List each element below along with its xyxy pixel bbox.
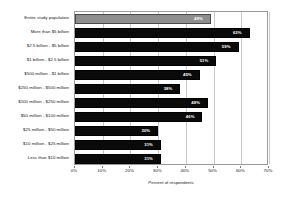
x-axis-title: Percent of respondents xyxy=(74,181,268,185)
gridline xyxy=(269,12,270,164)
bar-row: 31% xyxy=(75,154,267,163)
bar-row: 38% xyxy=(75,84,267,93)
bar-value-label: 31% xyxy=(144,157,160,161)
bar-value-label: 38% xyxy=(164,87,180,91)
bar-value-label: 45% xyxy=(183,73,199,77)
bar-value-label: 49% xyxy=(194,17,210,21)
x-tick-label: 40% xyxy=(180,169,189,173)
bar: 31% xyxy=(75,154,161,163)
bar: 45% xyxy=(75,70,200,79)
bar: 30% xyxy=(75,126,158,135)
bar: 38% xyxy=(75,84,180,93)
category-label: $1 billion - $2.5 billion xyxy=(27,58,69,62)
category-label: Entire study population xyxy=(24,16,69,20)
plot-area: 49%63%59%51%45%38%48%46%30%31%31% xyxy=(74,11,268,165)
bar: 49% xyxy=(75,14,211,23)
category-label: More than $5 billion xyxy=(31,30,69,34)
x-tick-label: 50% xyxy=(208,169,217,173)
bar-value-label: 63% xyxy=(233,31,249,35)
bar-value-label: 59% xyxy=(222,45,238,49)
bar-row: 31% xyxy=(75,140,267,149)
x-tick-label: 20% xyxy=(125,169,134,173)
bar-chart: Entire study populationMore than $5 bill… xyxy=(0,0,282,197)
category-axis-labels: Entire study populationMore than $5 bill… xyxy=(0,11,72,165)
bar: 48% xyxy=(75,98,208,107)
x-tick-label: 70% xyxy=(264,169,273,173)
category-label: $2.5 billion - $5 billion xyxy=(27,44,69,48)
x-tick-label: 0% xyxy=(71,169,77,173)
bar-value-label: 30% xyxy=(141,129,157,133)
bar-row: 63% xyxy=(75,28,267,37)
bar-row: 48% xyxy=(75,98,267,107)
bar: 46% xyxy=(75,112,202,121)
category-label: $10 million - $25 million xyxy=(23,142,69,146)
bar: 51% xyxy=(75,56,216,65)
x-axis-ticks: 0%10%20%30%40%50%60%70% xyxy=(74,166,268,176)
bar-row: 59% xyxy=(75,42,267,51)
bar: 63% xyxy=(75,28,250,37)
bar-row: 46% xyxy=(75,112,267,121)
bar: 31% xyxy=(75,140,161,149)
category-label: Less than $10 million xyxy=(28,156,69,160)
bar-value-label: 51% xyxy=(200,59,216,63)
category-label: $25 million - $50 million xyxy=(23,128,69,132)
bar-row: 45% xyxy=(75,70,267,79)
bar-value-label: 31% xyxy=(144,143,160,147)
bar: 59% xyxy=(75,42,239,51)
bar-row: 51% xyxy=(75,56,267,65)
category-label: $250 million - $500 million xyxy=(18,86,69,90)
bars-layer: 49%63%59%51%45%38%48%46%30%31%31% xyxy=(75,12,267,164)
x-tick-label: 60% xyxy=(236,169,245,173)
category-label: $500 million - $1 billion xyxy=(24,72,69,76)
bar-value-label: 46% xyxy=(186,115,202,119)
bar-row: 49% xyxy=(75,14,267,23)
x-tick-label: 10% xyxy=(97,169,106,173)
bar-row: 30% xyxy=(75,126,267,135)
category-label: $100 million - $250 million xyxy=(18,100,69,104)
category-label: $50 million - $100 million xyxy=(21,114,69,118)
bar-value-label: 48% xyxy=(191,101,207,105)
x-tick-label: 30% xyxy=(153,169,162,173)
